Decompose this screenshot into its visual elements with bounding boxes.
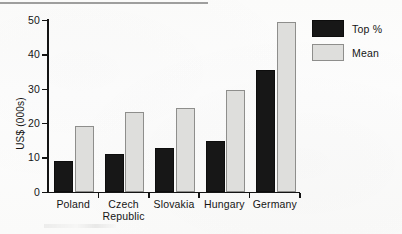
- x-axis-tick: [98, 193, 100, 198]
- x-axis-line: [47, 192, 300, 194]
- chart-legend: Top % Mean: [312, 20, 400, 68]
- x-axis-category-label: Germany: [235, 198, 315, 210]
- bar-chart: US$ (000s) 01020304050 PolandCzech Repub…: [0, 0, 402, 234]
- y-axis-line: [47, 19, 49, 193]
- legend-label-mean: Mean: [352, 47, 379, 59]
- bar-top-percent: [54, 161, 73, 192]
- bar-mean: [125, 112, 144, 192]
- bar-top-percent: [256, 70, 275, 192]
- y-axis-tick: [42, 123, 48, 124]
- y-axis-tick-label: 0: [10, 186, 40, 198]
- y-axis-tick-label: 30: [10, 83, 40, 95]
- legend-item-mean[interactable]: Mean: [312, 44, 400, 61]
- bar-top-percent: [155, 148, 174, 192]
- y-axis-tick: [42, 157, 48, 158]
- y-axis-tick-label: 20: [10, 117, 40, 129]
- legend-item-top-percent[interactable]: Top %: [312, 20, 400, 37]
- bar-mean: [226, 90, 245, 191]
- y-axis-tick: [42, 20, 48, 21]
- legend-label-top-percent: Top %: [352, 23, 382, 35]
- x-axis-tick: [299, 193, 301, 198]
- black-swatch-icon: [312, 20, 344, 37]
- x-axis-tick: [249, 193, 251, 198]
- y-axis-tick-label: 40: [10, 48, 40, 60]
- bar-mean: [277, 22, 296, 192]
- y-axis-tick-label: 10: [10, 151, 40, 163]
- bar-top-percent: [105, 154, 124, 192]
- scan-artifact: [44, 224, 116, 228]
- y-axis-tick: [42, 89, 48, 90]
- y-axis-tick: [42, 54, 48, 55]
- gray-swatch-icon: [312, 44, 344, 61]
- x-axis-tick: [198, 193, 200, 198]
- bar-mean: [176, 108, 195, 192]
- y-axis-tick: [42, 192, 48, 193]
- bar-top-percent: [206, 141, 225, 192]
- y-axis-tick-label: 50: [10, 14, 40, 26]
- bar-mean: [75, 126, 94, 191]
- x-axis-tick: [148, 193, 150, 198]
